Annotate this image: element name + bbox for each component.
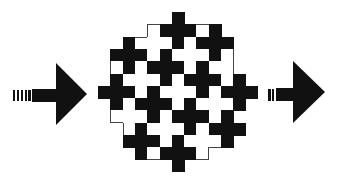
black-cross-cell: [184, 110, 197, 123]
black-cross-cell: [123, 37, 136, 50]
white-cross-cell: [172, 49, 185, 62]
black-cross-cell: [172, 147, 185, 160]
white-cross-cell: [172, 98, 185, 111]
black-cross-cell: [184, 24, 197, 37]
black-cross-cell: [123, 49, 136, 62]
arrow-tail-stripe: [21, 90, 23, 101]
black-cross-cell: [135, 147, 148, 160]
black-cross-cell: [160, 147, 173, 160]
white-cross-cell: [160, 110, 173, 123]
arrow-tail-stripe: [25, 90, 27, 101]
white-cross-cell: [123, 123, 136, 136]
black-cross-cell: [196, 86, 209, 99]
black-cross-cell: [160, 74, 173, 87]
white-cross-cell: [196, 123, 209, 136]
arrow-tail-stripe: [17, 90, 19, 101]
white-cross-cell: [147, 147, 160, 160]
black-cross-cell: [110, 98, 123, 111]
black-cross-cell: [172, 110, 185, 123]
white-cross-cell: [147, 74, 160, 87]
black-cross-cell: [184, 98, 197, 111]
black-cross-cell: [233, 74, 246, 87]
white-cross-cell: [172, 86, 185, 99]
black-cross-cell: [209, 123, 222, 136]
white-cross-cell: [196, 98, 209, 111]
black-cross-cell: [135, 49, 148, 62]
arrow-tail-stripe: [28, 90, 31, 101]
white-cross-cell: [209, 86, 222, 99]
white-cross-cell: [209, 98, 222, 111]
arrow-shaft: [32, 89, 57, 102]
black-cross-cell: [172, 160, 185, 173]
black-cross-cell: [221, 123, 234, 136]
black-cross-cell: [172, 61, 185, 74]
black-cross-cell: [209, 37, 222, 50]
black-cross-cell: [172, 135, 185, 148]
black-cross-cell: [196, 61, 209, 74]
white-cross-cell: [123, 74, 136, 87]
white-cross-cell: [160, 135, 173, 148]
black-cross-cell: [196, 110, 209, 123]
white-cross-cell: [147, 123, 160, 136]
black-cross-cell: [147, 86, 160, 99]
white-cross-cell: [209, 61, 222, 74]
black-cross-cell: [196, 37, 209, 50]
white-cross-cell: [160, 123, 173, 136]
black-cross-cell: [221, 86, 234, 99]
black-cross-cell: [209, 49, 222, 62]
white-cross-cell: [160, 37, 173, 50]
black-cross-cell: [172, 37, 185, 50]
black-cross-cell: [160, 61, 173, 74]
white-cross-cell: [123, 98, 136, 111]
white-cross-cell: [135, 74, 148, 87]
black-cross-cell: [98, 86, 111, 99]
white-cross-cell: [196, 24, 209, 37]
white-cross-cell: [147, 24, 160, 37]
white-cross-cell: [221, 98, 234, 111]
black-cross-cell: [135, 123, 148, 136]
white-cross-cell: [196, 147, 209, 160]
arrow-tail-block: [268, 89, 271, 101]
black-cross-cell: [110, 86, 123, 99]
white-cross-cell: [110, 110, 123, 123]
black-cross-cell: [184, 123, 197, 136]
white-cross-cell: [135, 110, 148, 123]
black-cross-cell: [123, 135, 136, 148]
white-cross-cell: [147, 49, 160, 62]
black-cross-cell: [233, 98, 246, 111]
black-cross-cell: [184, 147, 197, 160]
white-cross-cell: [135, 37, 148, 50]
black-cross-cell: [233, 123, 246, 136]
black-cross-cell: [209, 74, 222, 87]
white-cross-cell: [123, 110, 136, 123]
white-cross-cell: [172, 123, 185, 136]
arrow-tail-block: [272, 89, 274, 101]
white-cross-cell: [184, 49, 197, 62]
black-cross-cell: [172, 12, 185, 25]
black-cross-cell: [147, 135, 160, 148]
white-cross-cell: [160, 86, 173, 99]
cross-tessellation: [98, 12, 258, 172]
black-cross-cell: [221, 37, 234, 50]
white-cross-cell: [135, 86, 148, 99]
black-cross-cell: [110, 74, 123, 87]
arrow-head-icon: [56, 63, 87, 125]
white-cross-cell: [196, 49, 209, 62]
black-cross-cell: [147, 110, 160, 123]
black-cross-cell: [123, 61, 136, 74]
arrow-tail-stripe: [13, 90, 15, 101]
white-cross-cell: [184, 37, 197, 50]
black-cross-cell: [233, 86, 246, 99]
black-cross-cell: [196, 74, 209, 87]
white-cross-cell: [147, 37, 160, 50]
black-cross-cell: [147, 61, 160, 74]
black-cross-cell: [160, 49, 173, 62]
white-cross-cell: [184, 86, 197, 99]
black-cross-cell: [160, 24, 173, 37]
black-cross-cell: [246, 86, 259, 99]
white-cross-cell: [221, 49, 234, 62]
arrow-head-icon: [293, 61, 325, 123]
white-cross-cell: [209, 110, 222, 123]
black-cross-cell: [135, 135, 148, 148]
black-cross-cell: [221, 110, 234, 123]
